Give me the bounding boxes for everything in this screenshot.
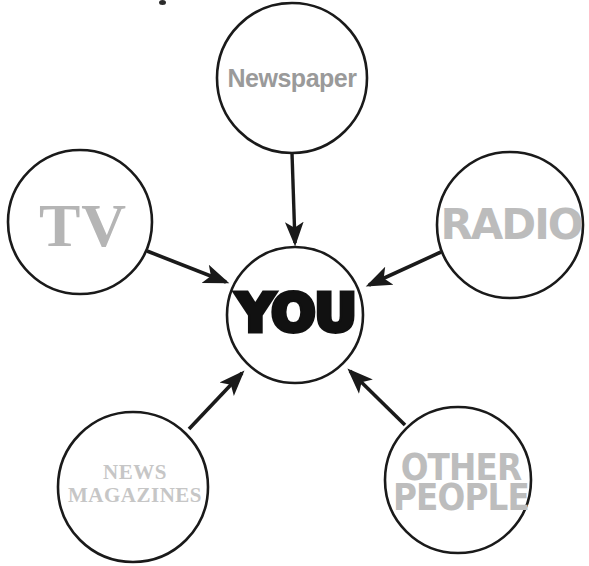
diagram-canvas: Newspaper TV RADIO NEWS MAGAZINES OTHER …: [0, 0, 589, 566]
arrow-news-magazines-to-you: [189, 373, 242, 429]
node-circle-newspaper[interactable]: [217, 3, 367, 153]
node-circle-radio[interactable]: [437, 152, 583, 298]
node-circle-other-people[interactable]: [385, 407, 531, 553]
scan-speck: [159, 0, 166, 5]
arrow-other-people-to-you: [350, 371, 405, 425]
arrow-radio-to-you: [369, 252, 441, 285]
node-circle-you[interactable]: [227, 247, 363, 383]
node-circle-news-magazines[interactable]: [58, 412, 208, 562]
node-circle-tv[interactable]: [8, 150, 152, 294]
arrow-tv-to-you: [147, 251, 226, 282]
diagram-graphics: [0, 0, 589, 566]
arrow-newspaper-to-you: [292, 153, 295, 243]
